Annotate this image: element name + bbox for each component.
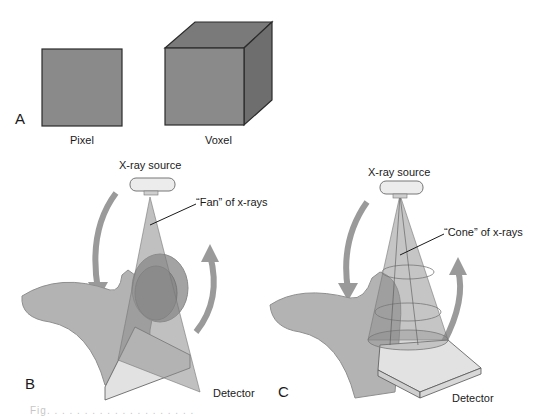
rotation-arrow-down-icon [346, 202, 367, 290]
panel-label-c: C [278, 383, 289, 400]
xray-source-icon [380, 181, 423, 194]
panel-label-b: B [25, 375, 35, 392]
panel-b-beam-label: “Fan” of x-rays [196, 196, 268, 208]
panel-b-source-label: X-ray source [119, 159, 181, 171]
fan-beam-illustration [22, 178, 219, 400]
panel-c-detector-label: Detector [452, 392, 494, 404]
voxel-label: Voxel [205, 134, 232, 146]
panel-label-a: A [15, 110, 25, 127]
voxel-cube [165, 22, 272, 125]
figure-caption: Fig. . . . . . . . . . . . . . . . . . .… [30, 405, 194, 416]
panel-b-detector-label: Detector [213, 387, 255, 399]
panel-c-beam-label: “Cone” of x-rays [444, 226, 523, 238]
rotation-arrow-up-icon [196, 255, 214, 332]
rotation-arrow-up-icon [444, 270, 460, 342]
pixel-square [42, 49, 122, 126]
cone-beam-illustration [270, 181, 481, 398]
xray-source-icon [130, 178, 175, 191]
panel-c-source-label: X-ray source [368, 166, 430, 178]
pixel-label: Pixel [70, 134, 94, 146]
rotation-arrow-down-icon [95, 193, 116, 290]
